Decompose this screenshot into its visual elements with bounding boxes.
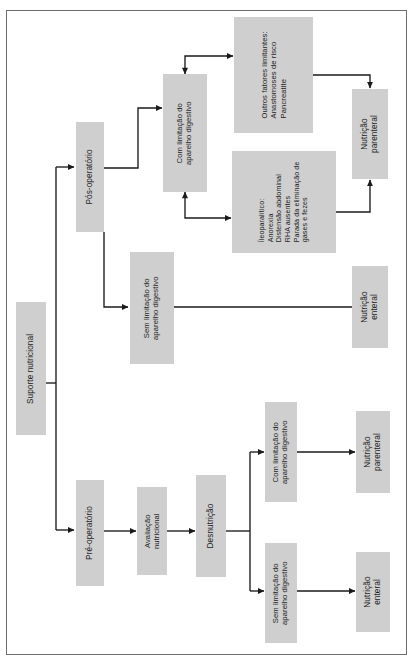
edge-outros-parenteral	[313, 75, 370, 88]
edge-pos-semlim	[104, 232, 128, 307]
node-label: Pré-operatório	[85, 506, 95, 560]
node-label: Com limitação do aparelho digestivo	[272, 420, 291, 483]
node-suporte-nutricional[interactable]: Suporte nutricional	[16, 302, 46, 435]
node-label: Com limitação do aparelho digestivo	[176, 101, 195, 164]
edge-ileo-parenteral	[336, 180, 370, 212]
node-label: Nutrição enteral	[360, 291, 380, 322]
node-pos-operatorio[interactable]: Pós-operatório	[76, 122, 104, 232]
node-nutricao-parenteral-pre-operatorio[interactable]: Nutrição parenteral	[356, 411, 390, 493]
node-label: Desnutrição	[206, 504, 216, 549]
node-label: Íleoparalítico: Anorexia Distensão abdom…	[258, 162, 310, 243]
node-sem-limitacao-pre-operatorio[interactable]: Sem limitação do aparelho digestivo	[265, 543, 297, 643]
node-label: Suporte nutricional	[26, 333, 36, 403]
node-label: Nutrição parenteral	[360, 115, 380, 153]
node-com-limitacao-pos-operatorio[interactable]: Com limitação do aparelho digestivo	[163, 74, 207, 192]
edge-comlim-outros	[185, 56, 233, 74]
node-outros-fatores-limitantes[interactable]: Outros fatores limitantes: Anastomoses d…	[234, 17, 313, 133]
edge-pos-comlim	[104, 108, 162, 168]
flowchart-page: Suporte nutricional Pós-operatório Pré-o…	[0, 0, 416, 666]
node-desnutricao[interactable]: Desnutrição	[196, 475, 226, 577]
edge-comlim-ileo	[185, 192, 231, 218]
node-com-limitacao-pre-operatorio[interactable]: Com limitação do aparelho digestivo	[265, 402, 297, 502]
node-nutricao-enteral-pre-operatorio[interactable]: Nutrição enteral	[356, 552, 390, 632]
node-label: Sem limitação do aparelho digestivo	[272, 561, 291, 624]
node-label: Pós-operatório	[85, 149, 95, 204]
node-nutricao-enteral-pos-operatorio[interactable]: Nutrição enteral	[352, 266, 388, 348]
node-sem-limitacao-pos-operatorio[interactable]: Sem limitação do aparelho digestivo	[130, 252, 174, 364]
node-ileoparalitico[interactable]: Íleoparalítico: Anorexia Distensão abdom…	[232, 151, 336, 253]
node-pre-operatorio[interactable]: Pré-operatório	[76, 480, 104, 586]
node-avaliacao-nutricional[interactable]: Avaliação nutricional	[137, 487, 167, 575]
node-label: Avaliação nutricional	[143, 513, 162, 549]
node-nutricao-parenteral-pos-operatorio[interactable]: Nutrição parenteral	[352, 89, 388, 179]
node-label: Sem limitação do aparelho digestivo	[143, 276, 162, 339]
node-label: Outros fatores limitantes: Anastomoses d…	[260, 31, 288, 118]
node-label: Nutrição parenteral	[363, 433, 383, 471]
node-label: Nutrição enteral	[363, 576, 383, 607]
